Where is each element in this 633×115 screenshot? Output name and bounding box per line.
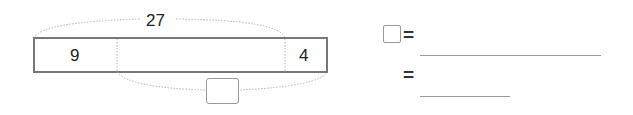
equation-1-equals: = [403,25,414,44]
equation-1-lhs-box[interactable] [383,25,401,43]
bottom-brace-right [240,72,327,90]
segment-right-label: 4 [299,47,308,64]
bar-model-graphic [0,0,633,115]
top-brace-right [176,19,285,38]
bottom-brace-left [117,72,206,90]
bottom-answer-box[interactable] [206,78,239,104]
equation-2-answer-line[interactable] [420,96,510,97]
equation-1-answer-line[interactable] [420,55,601,56]
total-label: 27 [146,12,165,29]
top-brace-left [34,19,140,38]
equation-2-equals: = [403,65,414,84]
segment-left-label: 9 [70,47,79,64]
